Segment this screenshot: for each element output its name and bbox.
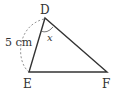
angle-x-label: x xyxy=(47,32,53,43)
triangle-diagram: D E F 5 cm x xyxy=(0,0,123,92)
vertex-f-label: F xyxy=(102,77,110,91)
vertex-e-label: E xyxy=(23,77,32,91)
triangle-def xyxy=(29,18,107,72)
side-length-label: 5 cm xyxy=(5,36,33,49)
vertex-d-label: D xyxy=(40,3,50,17)
